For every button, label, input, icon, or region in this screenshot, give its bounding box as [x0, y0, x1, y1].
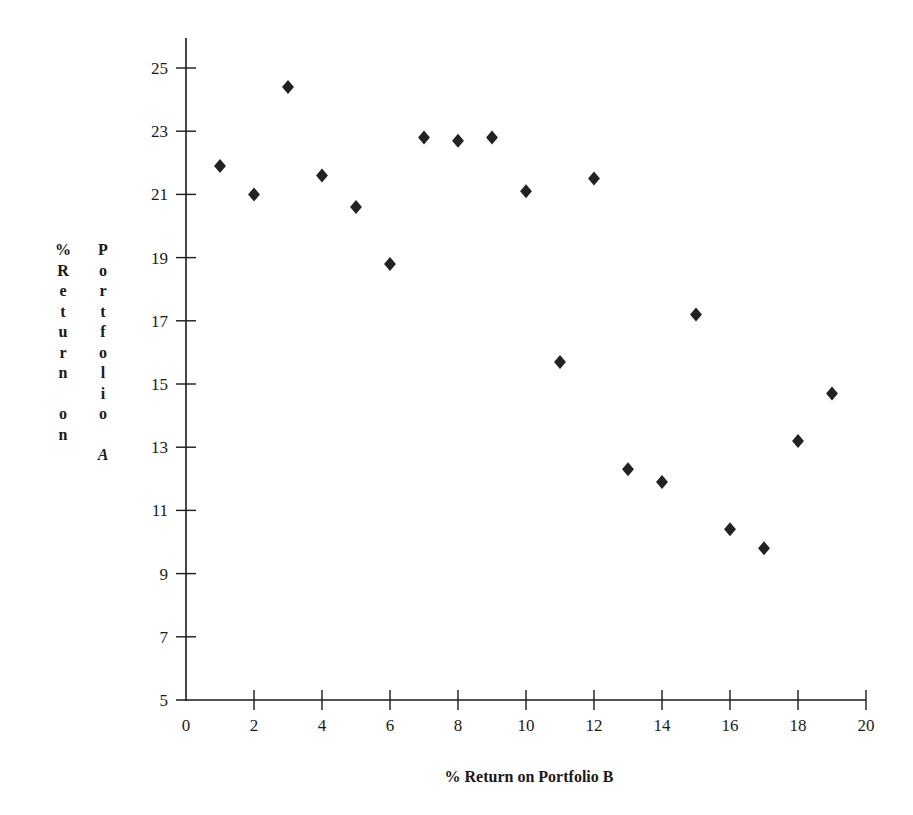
data-point-diamond [622, 462, 634, 476]
y-axis-title-letter: o [95, 343, 111, 364]
y-axis-title-letter: e [55, 281, 71, 302]
y-tick-label: 19 [151, 249, 168, 268]
y-axis-title-letter: t [55, 302, 71, 323]
x-tick-label: 0 [182, 716, 191, 735]
data-point-diamond [554, 355, 566, 369]
data-point-diamond [656, 475, 668, 489]
x-tick-label: 6 [386, 716, 395, 735]
y-axis-title-letter [55, 384, 71, 405]
y-axis-title-letter: o [55, 404, 71, 425]
data-point-diamond [350, 200, 362, 214]
data-points [214, 80, 838, 555]
axes [176, 38, 866, 701]
y-tick-label: 25 [151, 59, 168, 78]
y-axis-title-letter: n [55, 363, 71, 384]
y-axis-title-part1: %Returnon [55, 240, 71, 445]
y-axis-title-letter: f [95, 322, 111, 343]
y-tick-label: 23 [151, 122, 168, 141]
y-axis-title-letter: o [95, 404, 111, 425]
data-point-diamond [384, 257, 396, 271]
y-axis-title-letter: r [95, 281, 111, 302]
data-point-diamond [724, 522, 736, 536]
data-point-diamond [588, 172, 600, 186]
x-tick-label: 14 [654, 716, 672, 735]
x-tick-label: 18 [790, 716, 807, 735]
y-axis-title-letter: n [55, 425, 71, 446]
x-axis-title: % Return on Portfolio B [445, 768, 614, 785]
y-axis-title-letter: P [95, 240, 111, 261]
data-point-diamond [758, 541, 770, 555]
y-tick-label: 21 [151, 185, 168, 204]
y-axis-title-letter: t [95, 302, 111, 323]
data-point-diamond [248, 187, 260, 201]
x-tick-label: 12 [586, 716, 603, 735]
data-point-diamond [418, 131, 430, 145]
y-axis-title-letter: u [55, 322, 71, 343]
data-point-diamond [316, 168, 328, 182]
y-axis-title-letter: i [95, 384, 111, 405]
data-point-diamond [520, 184, 532, 198]
x-tick-label: 16 [722, 716, 739, 735]
y-tick-label: 7 [160, 628, 169, 647]
y-axis-title-letter: l [95, 363, 111, 384]
y-axis-title-letter: % [55, 240, 71, 261]
y-axis-title-letter: r [55, 343, 71, 364]
x-tick-label: 10 [518, 716, 535, 735]
y-axis-ticks: 5791113151719212325 [151, 59, 196, 710]
y-tick-label: 5 [160, 691, 169, 710]
y-tick-label: 13 [151, 438, 168, 457]
y-axis-title-letter: o [95, 261, 111, 282]
data-point-diamond [826, 386, 838, 400]
y-axis-title-letter: A [95, 445, 111, 466]
y-tick-label: 11 [152, 501, 168, 520]
data-point-diamond [690, 307, 702, 321]
x-tick-label: 8 [454, 716, 463, 735]
x-tick-label: 2 [250, 716, 259, 735]
x-tick-label: 20 [858, 716, 875, 735]
y-axis-title-letter: R [55, 261, 71, 282]
data-point-diamond [792, 434, 804, 448]
y-tick-label: 15 [151, 375, 168, 394]
y-axis-title-part2: PortfolioA [95, 240, 111, 466]
data-point-diamond [214, 159, 226, 173]
x-tick-label: 4 [318, 716, 327, 735]
scatter-chart: 02468101214161820 5791113151719212325 % … [0, 0, 913, 815]
x-axis-ticks: 02468101214161820 [182, 690, 875, 735]
y-tick-label: 9 [160, 565, 169, 584]
data-point-diamond [452, 134, 464, 148]
y-axis-title-letter [95, 425, 111, 446]
y-tick-label: 17 [151, 312, 169, 331]
data-point-diamond [486, 131, 498, 145]
data-point-diamond [282, 80, 294, 94]
